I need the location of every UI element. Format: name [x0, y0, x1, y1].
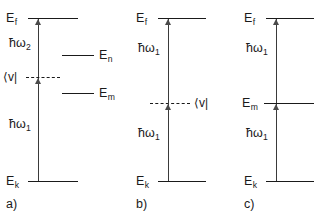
final-level-label-b: Ef [136, 12, 147, 25]
intermediate-level-line-c [264, 103, 314, 104]
initial-level-line-a [28, 181, 78, 182]
upper-transition-line-a [38, 19, 39, 77]
initial-level-label-a: Ek [6, 175, 19, 188]
upper-transition-arrowhead-c [273, 19, 279, 25]
upper-transition-line-b [168, 19, 169, 103]
upper-transition-arrowhead-b [165, 19, 171, 25]
panel-caption-a: a) [6, 198, 17, 211]
panel-b: Ef ħω1 ⟨v| ħω1 Ek b) [120, 0, 232, 220]
energy-level-figure: Ef ħω2 ⟨v| ħω1 Ek En Em a) [0, 0, 329, 220]
lower-transition-line-a [38, 78, 39, 181]
lower-transition-line-c [276, 104, 277, 181]
upper-transition-arrowhead-a [35, 19, 41, 25]
lower-transition-arrowhead-b [165, 104, 171, 110]
lower-photon-label-a: ħω1 [9, 118, 31, 131]
intermediate-level-label-c: Em [242, 97, 258, 110]
panel-a: Ef ħω2 ⟨v| ħω1 Ek En Em a) [0, 0, 120, 220]
upper-photon-label-a: ħω2 [9, 37, 31, 50]
initial-level-line-c [266, 181, 314, 182]
lower-photon-label-c: ħω1 [246, 127, 268, 140]
virtual-level-label-b: ⟨v| [194, 97, 208, 109]
virtual-level-label-a: ⟨v| [3, 71, 17, 83]
lower-transition-line-b [168, 104, 169, 181]
panel-caption-b: b) [136, 198, 147, 211]
final-level-label-a: Ef [6, 12, 17, 25]
lower-transition-arrowhead-c [273, 104, 279, 110]
real-level-label-m-a: Em [99, 87, 115, 100]
initial-level-label-b: Ek [136, 175, 149, 188]
upper-photon-label-c: ħω1 [246, 42, 268, 55]
real-level-line-n-a [62, 55, 94, 56]
lower-photon-label-b: ħω1 [138, 127, 160, 140]
final-level-label-c: Ef [244, 12, 255, 25]
virtual-level-line-a [26, 77, 60, 78]
initial-level-line-b [158, 181, 206, 182]
panel-c: Ef ħω1 Em ħω1 Ek c) [232, 0, 329, 220]
real-level-line-m-a [62, 93, 94, 94]
initial-level-label-c: Ek [244, 175, 257, 188]
panel-caption-c: c) [244, 198, 254, 211]
real-level-label-n-a: En [99, 49, 112, 62]
lower-transition-arrowhead-a [35, 78, 41, 84]
upper-photon-label-b: ħω1 [138, 42, 160, 55]
upper-transition-line-c [276, 19, 277, 103]
